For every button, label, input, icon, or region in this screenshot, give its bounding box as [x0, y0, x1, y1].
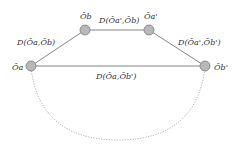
distance-diagram: Ôa Ôb Ôa' Ôb' D(Ôa,Ôb) D(Ôa',Ôb) D(Ôa',Ô…: [0, 0, 240, 146]
edge-oa-ob: [31, 30, 85, 66]
edge-label-oa2-ob: D(Ôa',Ôb): [98, 16, 139, 25]
label-oa-prime: Ôa': [144, 12, 158, 21]
label-oa: Ôa: [12, 63, 24, 72]
edge-label-oa-ob2: D(Ôa,Ôb'): [95, 72, 136, 81]
edge-label-oa2-ob2: D(Ôa',Ôb'): [177, 38, 221, 47]
label-ob: Ôb: [80, 12, 92, 21]
node-oa-prime: [144, 25, 154, 35]
node-ob-prime: [200, 61, 210, 71]
edge-oa2-ob2: [149, 30, 205, 66]
node-ob: [80, 25, 90, 35]
edge-label-oa-ob: D(Ôa,Ôb): [16, 38, 55, 47]
label-ob-prime: Ôb': [214, 63, 228, 72]
node-oa: [26, 61, 36, 71]
